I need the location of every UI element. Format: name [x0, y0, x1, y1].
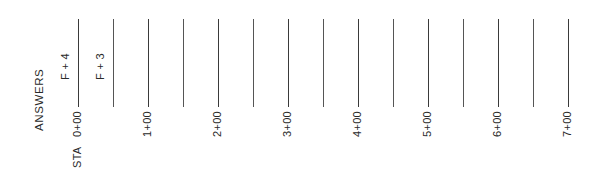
station-line — [568, 19, 569, 107]
station-label: 1+00 — [141, 111, 154, 137]
answer-value: F + 4 — [59, 53, 72, 80]
station-line — [183, 19, 184, 107]
station-line — [428, 19, 429, 107]
station-label: 7+00 — [561, 111, 574, 137]
station-prefix-label: STA — [71, 147, 84, 168]
station-line — [148, 19, 149, 107]
station-line — [253, 19, 254, 107]
station-line — [498, 19, 499, 107]
station-line — [78, 19, 79, 107]
answers-label: ANSWERS — [33, 69, 46, 131]
answer-value: F + 3 — [94, 53, 107, 80]
cut-fill-worksheet: ANSWERS STA 0+001+002+003+004+005+006+00… — [0, 0, 602, 169]
station-line — [463, 19, 464, 107]
station-label: 6+00 — [491, 111, 504, 137]
station-line — [358, 19, 359, 107]
station-line — [113, 19, 114, 107]
station-line — [393, 19, 394, 107]
station-label: 3+00 — [281, 111, 294, 137]
station-label: 2+00 — [211, 111, 224, 137]
station-line — [218, 19, 219, 107]
station-label: 5+00 — [421, 111, 434, 137]
station-label: 0+00 — [71, 111, 84, 137]
station-line — [323, 19, 324, 107]
station-line — [288, 19, 289, 107]
station-label: 4+00 — [351, 111, 364, 137]
station-line — [533, 19, 534, 107]
